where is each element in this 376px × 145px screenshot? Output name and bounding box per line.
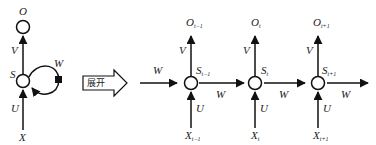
step-t-minus-1: V Ot−1 St−1 U Xt−1 [179,16,210,142]
input-label: X [18,131,27,143]
delay-square-icon [55,76,62,83]
w-label: W [54,57,64,69]
w-label: W [279,88,289,100]
unfold-label: 展开 [87,78,105,88]
w-label-out: W [341,88,351,100]
v-label: V [11,44,19,56]
u-label: U [260,102,269,114]
state-node [17,75,30,88]
unfold-arrow: 展开 [83,70,127,96]
input-label: Xt−1 [184,129,200,142]
step-t-plus-1: V Ot+1 St+1 U Xt+1 [306,16,336,142]
u-label: U [196,102,205,114]
folded-rnn: O V S W U X [10,5,64,143]
state-label: St [261,64,269,77]
input-label: Xt+1 [312,129,328,142]
output-label: Ot−1 [186,16,203,29]
v-label: V [306,44,314,56]
state-node [312,77,325,90]
state-label: St+1 [322,64,336,77]
state-label: S [10,68,16,80]
output-label: O [19,5,27,17]
v-label: V [243,44,251,56]
recurrent-loop-bottom [32,80,59,94]
rnn-diagram: O V S W U X 展开 W V Ot−1 St−1 U Xt−1 W V [0,0,376,145]
u-label: U [323,102,332,114]
v-label: V [179,44,187,56]
w-label-in: W [153,64,163,76]
state-node [185,77,198,90]
input-label: Xt [250,129,260,142]
state-label: St−1 [196,64,210,77]
w-label: W [216,88,226,100]
state-node [249,77,262,90]
output-label: Ot+1 [313,16,330,29]
u-label: U [11,102,20,114]
output-node [17,21,30,34]
output-label: Ot [251,16,261,29]
step-t: V Ot St U Xt [243,16,269,142]
